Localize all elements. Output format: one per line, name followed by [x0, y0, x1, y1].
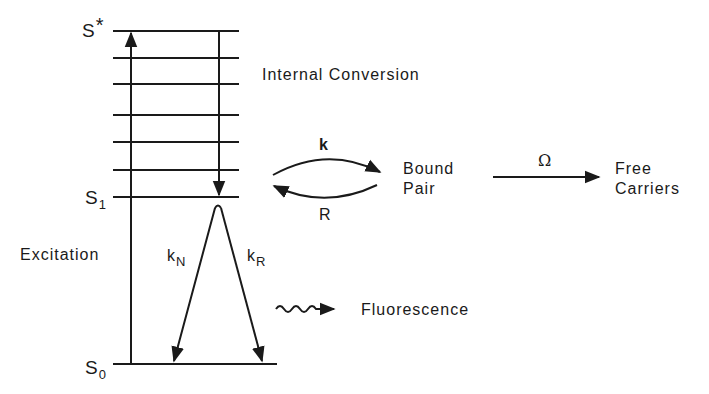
rate-kn-label: kN: [167, 248, 186, 264]
free-label: Free: [615, 159, 680, 179]
k-forward-arrow: [273, 159, 380, 175]
rate-r-label: R: [319, 207, 332, 223]
rate-k-label: k: [319, 137, 329, 153]
free-carriers-label: Free Carriers: [615, 159, 680, 199]
fluorescence-wavy-arrow: [276, 306, 334, 312]
rate-kr-label: kR: [247, 248, 266, 264]
carriers-label: Carriers: [615, 179, 680, 199]
kn-decay-arrow: [174, 206, 221, 362]
bound-label: Bound: [403, 159, 454, 179]
state-label-s0: S0: [85, 358, 107, 377]
pair-label: Pair: [403, 179, 454, 199]
internal-conversion-label: Internal Conversion: [262, 67, 420, 83]
rate-omega-label: Ω: [538, 153, 552, 169]
bound-pair-label: Bound Pair: [403, 159, 454, 199]
r-back-arrow: [274, 185, 377, 198]
fluorescence-label: Fluorescence: [361, 302, 469, 318]
excitation-label: Excitation: [20, 247, 99, 263]
state-label-s1: S1: [85, 188, 107, 207]
kr-decay-arrow: [221, 208, 262, 361]
state-label-s-star: S*: [82, 20, 104, 40]
